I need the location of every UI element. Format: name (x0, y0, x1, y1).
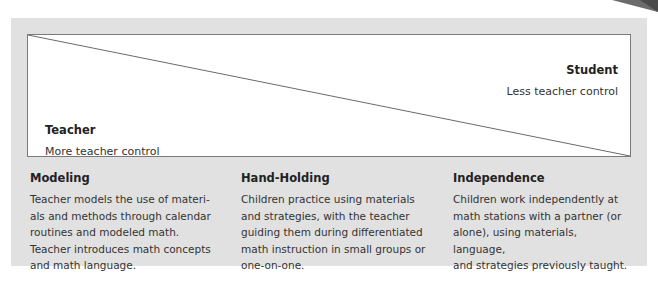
student-title: Student (507, 63, 618, 77)
stage-line: routines and modeled math. (30, 226, 179, 238)
stage-modeling: Modeling Teacher models the use of mater… (30, 171, 211, 274)
teacher-subtitle: More teacher control (45, 145, 160, 158)
stage-hand-holding: Hand-Holding Children practice using mat… (241, 171, 425, 274)
student-end-label: Student Less teacher control (507, 63, 618, 98)
stage-line: alone), using materials, language, (453, 226, 577, 255)
stage-description: Children work independently at math stat… (453, 191, 630, 274)
stage-line: and math language. (30, 259, 136, 271)
stage-line: als and methods through calendar (30, 210, 211, 222)
stage-line: Teacher models the use of materi- (30, 193, 210, 205)
stage-line: one-on-one. (241, 259, 304, 271)
teacher-title: Teacher (45, 123, 160, 137)
student-subtitle: Less teacher control (507, 85, 618, 98)
stage-title: Hand-Holding (241, 171, 425, 185)
stage-columns: Modeling Teacher models the use of mater… (30, 171, 630, 261)
stage-line: Children practice using materials (241, 193, 415, 205)
teacher-end-label: Teacher More teacher control (45, 123, 160, 158)
stage-line: Children work independently at (453, 193, 618, 205)
stage-title: Independence (453, 171, 630, 185)
stage-description: Teacher models the use of materi- als an… (30, 191, 211, 274)
stage-line: math stations with a partner (or (453, 210, 621, 222)
stage-independence: Independence Children work independently… (453, 171, 630, 274)
stage-line: guiding them during differentiated (241, 226, 423, 238)
stage-line: math instruction in small groups or (241, 243, 425, 255)
control-scale-box: Student Less teacher control Teacher Mor… (27, 34, 631, 157)
diagram-panel: Student Less teacher control Teacher Mor… (11, 18, 647, 266)
stage-line: Teacher introduces math concepts (30, 243, 211, 255)
stage-description: Children practice using materials and st… (241, 191, 425, 274)
stage-title: Modeling (30, 171, 211, 185)
corner-tab-decoration (612, 0, 658, 12)
stage-line: and strategies, with the teacher (241, 210, 410, 222)
stage-line: and strategies previously taught. (453, 259, 627, 271)
